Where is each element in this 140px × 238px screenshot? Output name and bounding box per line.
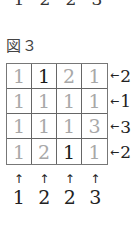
left-arrow-icon: ← [110, 69, 119, 82]
top-clue: 1 [6, 0, 32, 7]
top-clue: 2 [32, 0, 58, 7]
right-clue-value: 2 [120, 142, 131, 162]
grid-cell-r2c3: 1 [57, 89, 82, 114]
up-arrow-icon: ↑ [65, 172, 75, 186]
left-arrow-icon: ← [110, 120, 119, 133]
up-arrow-icon: ↑ [39, 172, 49, 186]
bottom-clue-value: 2 [38, 186, 50, 208]
up-arrow-icon: ↑ [90, 172, 100, 186]
grid-cell-r1c2: 1 [32, 64, 57, 89]
bottom-clue: ↑ 2 [32, 172, 58, 208]
grid-cell-r1c1: 1 [7, 64, 32, 89]
grid-cell-r3c1: 1 [7, 114, 32, 139]
bottom-clue: ↑ 1 [6, 172, 32, 208]
up-arrow-icon: ↑ [14, 172, 24, 186]
puzzle-grid: 1 1 2 1 1 1 1 1 1 1 1 3 1 2 1 1 [6, 63, 108, 165]
bottom-clue: ↑ 2 [57, 172, 83, 208]
left-arrow-icon: ← [110, 95, 119, 108]
grid-cell-r2c2: 1 [32, 89, 57, 114]
grid-cell-r3c2: 1 [32, 114, 57, 139]
right-clue-value: 2 [120, 66, 131, 86]
right-clues: ← 2 ← 1 ← 3 ← 2 [110, 63, 140, 165]
top-clue-row-clipped: 1 2 2 3 [6, 0, 110, 7]
top-clue: 3 [84, 0, 110, 7]
bottom-clue-value: 3 [89, 186, 101, 208]
bottom-clues: ↑ 1 ↑ 2 ↑ 2 ↑ 3 [6, 172, 108, 208]
bottom-clue-value: 2 [64, 186, 76, 208]
figure-label: 図３ [6, 34, 38, 55]
grid-cell-r1c3: 2 [57, 64, 82, 89]
grid-cell-r4c3: 1 [57, 139, 82, 164]
grid-cell-r3c3: 1 [57, 114, 82, 139]
left-arrow-icon: ← [110, 146, 119, 159]
grid-cell-r2c4: 1 [82, 89, 107, 114]
grid-cell-r4c4: 1 [82, 139, 107, 164]
right-clue-value: 3 [120, 117, 131, 137]
right-clue: ← 3 [110, 114, 140, 140]
grid-cell-r1c4: 1 [82, 64, 107, 89]
grid-cell-r4c2: 2 [32, 139, 57, 164]
top-clue: 2 [58, 0, 84, 7]
right-clue: ← 2 [110, 63, 140, 89]
right-clue-value: 1 [120, 91, 131, 111]
bottom-clue: ↑ 3 [83, 172, 109, 208]
grid-cell-r3c4: 3 [82, 114, 107, 139]
grid-cell-r2c1: 1 [7, 89, 32, 114]
bottom-clue-value: 1 [13, 186, 25, 208]
right-clue: ← 1 [110, 89, 140, 115]
right-clue: ← 2 [110, 140, 140, 166]
grid-cell-r4c1: 1 [7, 139, 32, 164]
